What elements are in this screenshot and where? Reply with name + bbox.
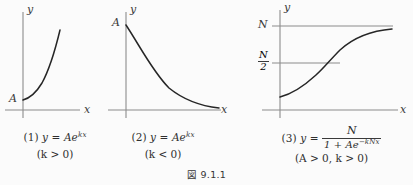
x-axis-label: x [84,104,90,115]
plot-exponential-growth [0,0,110,125]
intercept-label-a: A [9,93,17,104]
tick-n-half-denominator: 2 [258,61,269,73]
y-axis-label: y [130,4,136,15]
x-axis-label: x [221,104,227,115]
x-axis-label: x [400,104,406,115]
figure-container: y x A (1) y = Aekx (k > 0) y x A (2) y =… [0,0,413,185]
y-axis-label: y [284,2,290,13]
logistic-denominator: 1 + Ae−kNx [322,138,381,152]
panel-3-condition-text: (A > 0, k > 0) [295,152,368,164]
plot-logistic [250,0,413,125]
panel-exponential-growth: y x A (1) y = Aekx (k > 0) [0,0,110,165]
panel-1-condition-text: (k > 0) [37,148,74,160]
logistic-denominator-lead: 1 + Ae [324,139,359,150]
exponential-decay-curve [126,25,219,108]
panel-logistic: y x N N 2 (3) y = N1 + Ae−kNx (A > 0, k … [250,0,413,175]
panel-3-equation: (3) y = N1 + Ae−kNx [250,126,413,152]
panel-1-index: (1) [23,131,38,143]
figure-caption: 図 9.1.1 [0,167,413,181]
panel-2-equation: (2) y = Aekx [103,131,223,143]
panel-3-condition: (A > 0, k > 0) [250,152,413,164]
panel-2-rhs-base: Ae [172,131,186,143]
logistic-numerator: N [322,125,381,138]
plot-exponential-decay [103,0,228,125]
logistic-fraction: N1 + Ae−kNx [322,125,381,151]
panel-3-index: (3) [282,132,297,144]
panel-1-rhs-exp: kx [78,130,87,139]
panel-2-condition: (k < 0) [103,148,223,160]
panel-3-eq: = [310,132,319,144]
logistic-denominator-exponent: −kNx [359,137,380,145]
panel-1-equation: (1) y = Aekx [0,131,110,143]
tick-label-n-half: N 2 [258,50,269,72]
y-axis-label: y [27,4,33,15]
tick-n-half-numerator: N [258,50,269,61]
tick-label-n: N [258,19,268,30]
intercept-label-a: A [112,17,120,28]
panel-1-condition: (k > 0) [0,148,110,160]
panel-2-index: (2) [131,131,146,143]
panel-2-rhs-exp: kx [186,130,195,139]
panel-1-rhs-base: Ae [64,131,78,143]
panel-exponential-decay: y x A (2) y = Aekx (k < 0) [103,0,228,165]
exponential-growth-curve [23,30,60,100]
panel-2-condition-text: (k < 0) [145,148,182,160]
